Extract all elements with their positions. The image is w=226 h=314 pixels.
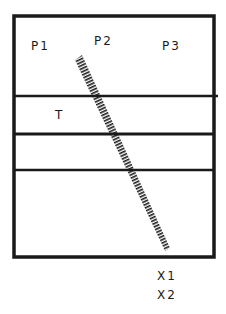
hatched-diagonal-element [75,55,170,251]
label-p3: P3 [162,40,181,52]
label-x1: X1 [157,270,177,282]
label-x2: X2 [157,289,177,301]
label-t: T [55,109,64,121]
label-p2: P2 [94,35,113,47]
label-p1: P1 [31,40,50,52]
